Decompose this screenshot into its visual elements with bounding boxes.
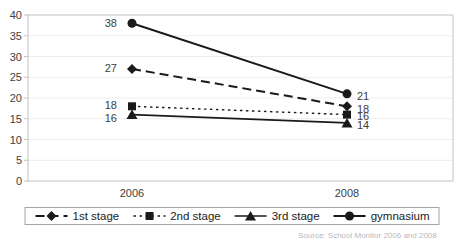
square-legend-sample-icon — [132, 210, 166, 222]
diamond-marker — [47, 211, 57, 221]
series-3rd-stage: 1614 — [105, 110, 370, 132]
y-axis-label: 30 — [10, 51, 22, 63]
y-axis-label: 20 — [10, 92, 22, 104]
circle-legend-sample-icon — [333, 210, 367, 222]
legend-item-1st-stage: 1st stage — [35, 210, 120, 222]
diamond-legend-sample-icon — [35, 210, 69, 222]
y-axis-label: 5 — [16, 154, 22, 166]
legend-item-3rd-stage: 3rd stage — [234, 210, 320, 222]
diamond-marker — [342, 101, 352, 111]
square-marker — [128, 102, 136, 110]
y-axis-label: 40 — [10, 9, 22, 21]
circle-marker — [343, 89, 352, 98]
chart-container: 0510152025303540200620082718181616143821… — [0, 0, 464, 239]
legend-item-2nd-stage: 2nd stage — [132, 210, 221, 222]
y-axis-label: 25 — [10, 71, 22, 83]
legend-item-gymnasium: gymnasium — [333, 210, 430, 222]
x-axis-label: 2008 — [335, 187, 359, 199]
series-line — [132, 69, 347, 106]
y-axis-label: 0 — [16, 175, 22, 187]
series-line — [132, 106, 347, 114]
line-chart: 0510152025303540200620082718181616143821 — [0, 0, 464, 239]
data-label: 38 — [105, 17, 117, 29]
source-caption: Source: School Monitor 2006 and 2008 — [298, 231, 437, 239]
legend-label: 3rd stage — [272, 210, 320, 222]
y-axis-label: 35 — [10, 30, 22, 42]
series-line — [132, 23, 347, 94]
square-marker — [145, 212, 153, 220]
circle-marker — [128, 19, 137, 28]
legend-label: 1st stage — [73, 210, 120, 222]
y-axis-label: 15 — [10, 113, 22, 125]
data-label: 27 — [105, 62, 117, 74]
data-label: 14 — [357, 119, 369, 131]
legend-label: 2nd stage — [170, 210, 221, 222]
chart-legend: 1st stage2nd stage3rd stagegymnasium — [25, 207, 440, 225]
data-label: 16 — [105, 112, 117, 124]
diamond-marker — [127, 64, 137, 74]
triangle-legend-sample-icon — [234, 210, 268, 222]
series-gymnasium: 3821 — [105, 17, 370, 103]
x-axis-label: 2006 — [120, 187, 144, 199]
data-label: 21 — [357, 90, 369, 102]
square-marker — [343, 111, 351, 119]
data-label: 18 — [105, 99, 117, 111]
y-axis-label: 10 — [10, 134, 22, 146]
circle-marker — [345, 212, 354, 221]
legend-label: gymnasium — [371, 210, 430, 222]
